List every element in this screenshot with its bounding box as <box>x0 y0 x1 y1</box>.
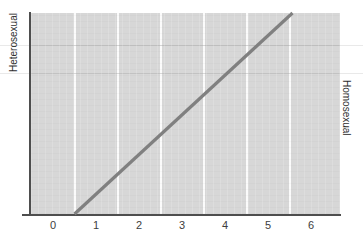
y-axis-line <box>29 12 31 215</box>
tick-label-x-3: 3 <box>171 219 193 232</box>
x-axis-line <box>22 214 341 216</box>
tick-label-x-5: 5 <box>257 219 279 232</box>
plot-area <box>31 13 340 214</box>
tick-label-x-2: 2 <box>128 219 150 232</box>
gridline-vertical-5-5 <box>289 13 291 214</box>
gridline-vertical-0-5 <box>74 13 76 214</box>
tick-label-x-1: 1 <box>85 219 107 232</box>
kinsey-scale-chart: 0 1 2 3 4 5 6 Heterosexual Homosexual <box>0 0 363 244</box>
gridline-vertical-3-5 <box>203 13 205 214</box>
tick-label-x-6: 6 <box>300 219 322 232</box>
tick-label-x-0: 0 <box>42 219 64 232</box>
gridline-vertical-2-5 <box>160 13 162 214</box>
scan-artifact-segment-lower <box>31 73 340 74</box>
axis-label-heterosexual: Heterosexual <box>8 13 19 72</box>
axis-label-homosexual: Homosexual <box>341 80 352 136</box>
gridline-vertical-4-5 <box>246 13 248 214</box>
gridline-vertical-1-5 <box>117 13 119 214</box>
scan-artifact-segment-upper <box>31 45 340 46</box>
tick-label-x-4: 4 <box>214 219 236 232</box>
